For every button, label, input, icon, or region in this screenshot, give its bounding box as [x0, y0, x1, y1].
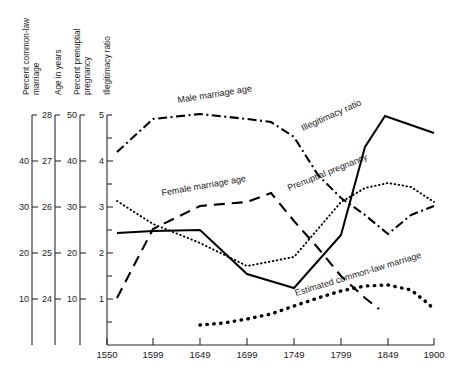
- y-tick-illegitimacy-1: 1: [99, 294, 104, 304]
- y-tick-prenuptial-50: 50: [67, 110, 77, 120]
- axis-title-common-law-line1: Percent common-law: [22, 18, 31, 95]
- y-tick-age-24: 24: [42, 294, 52, 304]
- y-tick-prenuptial-30: 30: [67, 202, 77, 212]
- axis-title-common-law-line2: marriage: [32, 62, 41, 95]
- x-tick-1749: 1749: [283, 349, 304, 360]
- series-labels-group: Male marriage age Female marriage age Pr…: [161, 83, 423, 298]
- y-axis-age: 28 27 26 25 24: [42, 110, 61, 345]
- axis-title-age: Age in years: [54, 49, 63, 95]
- series-curves-group: [117, 114, 434, 325]
- y-axis-common-law: 40 30 20 10: [19, 115, 38, 345]
- y-tick-prenuptial-20: 20: [67, 248, 77, 258]
- y-axis-illegitimacy: 5 4 3 2 1: [99, 110, 113, 345]
- y-tick-illegitimacy-5: 5: [99, 110, 104, 120]
- x-tick-1900: 1900: [423, 349, 444, 360]
- series-curve-male-marriage-age: [117, 114, 434, 234]
- series-label-female-marriage-age: Female marriage age: [161, 173, 247, 198]
- x-tick-1649: 1649: [189, 349, 210, 360]
- y-tick-common-law-20: 20: [19, 248, 29, 258]
- y-tick-prenuptial-10: 10: [67, 294, 77, 304]
- y-tick-age-28: 28: [42, 110, 52, 120]
- multi-axis-line-chart: Percent common-law marriage Age in years…: [0, 0, 453, 373]
- x-axis: 1550 1599 1649 1699 1749 1799 1849 1900: [96, 338, 444, 360]
- y-tick-common-law-30: 30: [19, 202, 29, 212]
- x-tick-1599: 1599: [142, 349, 163, 360]
- series-label-illegitimacy-ratio: Illegitimacy ratio: [300, 97, 363, 132]
- x-tick-1550: 1550: [96, 349, 117, 360]
- axis-title-illegitimacy: Illegitimacy ratio: [103, 36, 112, 95]
- axis-titles-group: Percent common-law marriage Age in years…: [22, 18, 112, 95]
- series-label-male-marriage-age: Male marriage age: [177, 83, 253, 105]
- y-tick-age-26: 26: [42, 202, 52, 212]
- axis-title-prenuptial-line2: pregnancy: [83, 56, 92, 95]
- y-tick-illegitimacy-2: 2: [99, 248, 104, 258]
- y-tick-illegitimacy-4: 4: [99, 156, 104, 166]
- y-tick-age-25: 25: [42, 248, 52, 258]
- y-tick-prenuptial-40: 40: [67, 156, 77, 166]
- series-label-prenuptial-pregnancy: Prenuptial pregnancy: [286, 152, 369, 193]
- axis-title-prenuptial-line1: Percent prenuptial: [73, 28, 82, 95]
- x-tick-1699: 1699: [236, 349, 257, 360]
- chart-container: Percent common-law marriage Age in years…: [0, 0, 453, 373]
- y-tick-age-27: 27: [42, 156, 52, 166]
- y-axis-prenuptial: 50 40 30 20 10: [67, 110, 86, 345]
- x-tick-1849: 1849: [377, 349, 398, 360]
- x-tick-1799: 1799: [330, 349, 351, 360]
- y-tick-common-law-10: 10: [19, 294, 29, 304]
- y-tick-common-law-40: 40: [19, 156, 29, 166]
- y-tick-illegitimacy-3: 3: [99, 202, 104, 212]
